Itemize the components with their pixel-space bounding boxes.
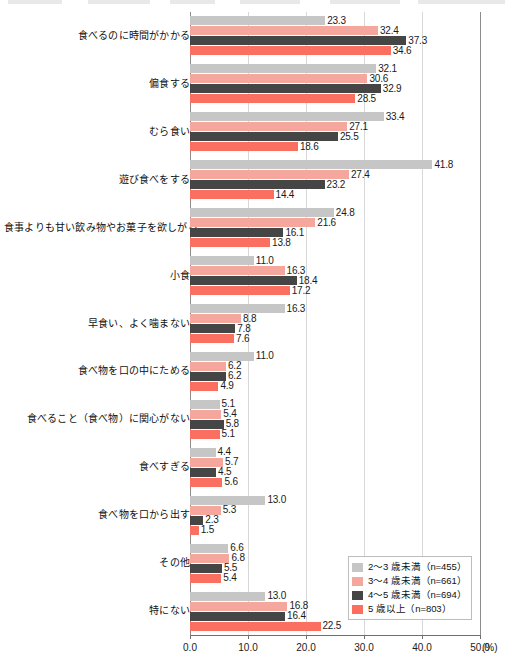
bar[interactable] <box>190 266 285 275</box>
bar-row[interactable]: 5.7 <box>190 458 480 467</box>
bar-value-label: 32.9 <box>381 84 402 94</box>
bar-value-label: 24.8 <box>334 208 355 218</box>
bar-row[interactable]: 28.5 <box>190 94 480 103</box>
bar-row[interactable]: 23.3 <box>190 16 480 25</box>
bar[interactable] <box>190 526 199 535</box>
bar-row[interactable]: 33.4 <box>190 112 480 121</box>
bar[interactable] <box>190 622 321 631</box>
bar-row[interactable]: 18.4 <box>190 276 480 285</box>
bar[interactable] <box>190 276 297 285</box>
bar[interactable] <box>190 142 298 151</box>
bar[interactable] <box>190 190 274 199</box>
bar-row[interactable]: 30.6 <box>190 74 480 83</box>
bar[interactable] <box>190 410 221 419</box>
bar[interactable] <box>190 84 381 93</box>
bar-row[interactable]: 32.4 <box>190 26 480 35</box>
bar-row[interactable]: 6.2 <box>190 372 480 381</box>
bar[interactable] <box>190 46 391 55</box>
bar-group: 23.332.437.334.6 <box>190 16 480 56</box>
bar-row[interactable]: 5.3 <box>190 506 480 515</box>
bar-row[interactable]: 11.0 <box>190 256 480 265</box>
bar[interactable] <box>190 564 222 573</box>
bar-row[interactable]: 5.6 <box>190 478 480 487</box>
bar-row[interactable]: 18.6 <box>190 142 480 151</box>
bar[interactable] <box>190 430 220 439</box>
bar[interactable] <box>190 544 228 553</box>
bar[interactable] <box>190 16 325 25</box>
bar-value-label: 28.5 <box>355 94 376 104</box>
bar[interactable] <box>190 352 254 361</box>
bar[interactable] <box>190 420 224 429</box>
bar-row[interactable]: 16.3 <box>190 304 480 313</box>
legend-item[interactable]: 3〜4 歳未満（n=661） <box>352 574 467 588</box>
bar-row[interactable]: 7.6 <box>190 334 480 343</box>
x-tick-label: 30.0 <box>354 642 373 654</box>
bar[interactable] <box>190 592 265 601</box>
bar[interactable] <box>190 170 349 179</box>
bar[interactable] <box>190 238 270 247</box>
bar-row[interactable]: 27.1 <box>190 122 480 131</box>
legend-swatch <box>352 605 363 614</box>
bar-row[interactable]: 14.4 <box>190 190 480 199</box>
bar-group: 41.827.423.214.4 <box>190 160 480 200</box>
bar-row[interactable]: 25.5 <box>190 132 480 141</box>
bar[interactable] <box>190 612 285 621</box>
bar[interactable] <box>190 26 378 35</box>
bar[interactable] <box>190 574 221 583</box>
bar-value-label: 16.3 <box>285 304 306 314</box>
bar-row[interactable]: 41.8 <box>190 160 480 169</box>
bar[interactable] <box>190 64 376 73</box>
bar-value-label: 5.6 <box>222 477 237 487</box>
legend-swatch <box>352 563 363 572</box>
bar[interactable] <box>190 122 347 131</box>
bar-row[interactable]: 37.3 <box>190 36 480 45</box>
legend-item[interactable]: 2〜3 歳未満（n=455） <box>352 560 467 574</box>
legend-item[interactable]: 4〜5 歳未満（n=694） <box>352 588 467 602</box>
bar[interactable] <box>190 468 216 477</box>
bar-row[interactable]: 16.1 <box>190 228 480 237</box>
bar-value-label: 34.6 <box>391 46 412 56</box>
bar-row[interactable]: 4.9 <box>190 382 480 391</box>
bar-value-label: 18.6 <box>298 142 319 152</box>
bar-value-label: 33.4 <box>384 112 405 122</box>
bar[interactable] <box>190 180 325 189</box>
bar[interactable] <box>190 362 226 371</box>
bar[interactable] <box>190 448 216 457</box>
bar[interactable] <box>190 94 355 103</box>
legend-item[interactable]: 5 歳以上（n=803） <box>352 602 467 616</box>
bar-row[interactable]: 17.2 <box>190 286 480 295</box>
x-tick-mark <box>190 635 191 639</box>
bar-row[interactable]: 34.6 <box>190 46 480 55</box>
bar[interactable] <box>190 286 290 295</box>
x-axis-unit-label: (%) <box>482 642 498 654</box>
bar[interactable] <box>190 334 234 343</box>
bar-row[interactable]: 2.3 <box>190 516 480 525</box>
bar-row[interactable]: 32.1 <box>190 64 480 73</box>
bar[interactable] <box>190 602 287 611</box>
bar[interactable] <box>190 228 283 237</box>
bar[interactable] <box>190 74 367 83</box>
bar[interactable] <box>190 304 285 313</box>
bar-row[interactable]: 32.9 <box>190 84 480 93</box>
bar-row[interactable]: 5.1 <box>190 430 480 439</box>
bar-row[interactable]: 21.6 <box>190 218 480 227</box>
bar-row[interactable]: 13.8 <box>190 238 480 247</box>
bar[interactable] <box>190 382 218 391</box>
bar-row[interactable]: 22.5 <box>190 622 480 631</box>
scan-artifact <box>0 0 505 4</box>
bar-row[interactable]: 1.5 <box>190 526 480 535</box>
bar[interactable] <box>190 36 406 45</box>
bar-row[interactable]: 16.3 <box>190 266 480 275</box>
bar[interactable] <box>190 256 254 265</box>
bar[interactable] <box>190 314 241 323</box>
legend-label: 2〜3 歳未満（n=455） <box>368 562 467 572</box>
bar[interactable] <box>190 208 334 217</box>
bar-row[interactable]: 7.8 <box>190 324 480 333</box>
bar[interactable] <box>190 478 222 487</box>
bar-row[interactable]: 23.2 <box>190 180 480 189</box>
bar[interactable] <box>190 400 220 409</box>
x-tick-mark <box>480 635 481 639</box>
bar[interactable] <box>190 324 235 333</box>
bar[interactable] <box>190 160 432 169</box>
bar-row[interactable]: 8.8 <box>190 314 480 323</box>
